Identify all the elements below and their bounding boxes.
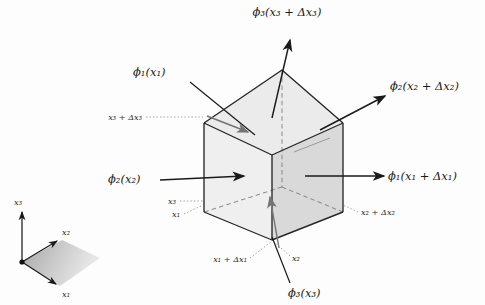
legend-axis-x3-label: x₃ xyxy=(14,197,22,207)
legend-axis-x1-label: x₁ xyxy=(62,289,70,299)
coord-label-x2: x₂ xyxy=(292,253,300,263)
figure-container: ϕ₃(x₃ + Δx₃) ϕ₂(x₂ + Δx₂) ϕ₁(x₁ + Δx₁) ϕ… xyxy=(0,0,485,305)
flux-label-phi2-plus: ϕ₂(x₂ + Δx₂) xyxy=(390,79,459,93)
coord-label-x1: x₁ xyxy=(172,209,180,219)
leader-x2-plus-dx2 xyxy=(343,205,358,212)
flux-label-phi1-plus: ϕ₁(x₁ + Δx₁) xyxy=(388,169,457,183)
coord-label-x2-plus-dx2: x₂ + Δx₂ xyxy=(361,207,395,217)
flux-label-phi2: ϕ₂(x₂) xyxy=(108,172,141,186)
flux-label-phi3-top: ϕ₃(x₃ + Δx₃) xyxy=(253,5,322,19)
coord-label-x3: x₃ xyxy=(168,196,176,206)
flux-label-phi3: ϕ₃(x₃) xyxy=(288,286,321,300)
coord-label-x3-plus-dx3: x₃ + Δx₃ xyxy=(108,112,142,122)
coord-label-x1-plus-dx1: x₁ + Δx₁ xyxy=(213,254,247,264)
legend-axis-x2-label: x₂ xyxy=(62,227,70,237)
leader-x1-plus-dx1 xyxy=(250,242,271,258)
flux-leader-phi3-bottom xyxy=(272,237,290,283)
flux-label-phi1: ϕ₁(x₁) xyxy=(133,65,166,79)
figure-canvas: ϕ₃(x₃ + Δx₃) ϕ₂(x₂ + Δx₂) ϕ₁(x₁ + Δx₁) ϕ… xyxy=(0,0,485,305)
leader-x1 xyxy=(184,205,203,214)
coordinate-axes-legend: x₃ x₂ x₁ xyxy=(14,197,100,299)
legend-origin-dot xyxy=(19,259,24,264)
legend-parallelogram xyxy=(22,240,100,286)
